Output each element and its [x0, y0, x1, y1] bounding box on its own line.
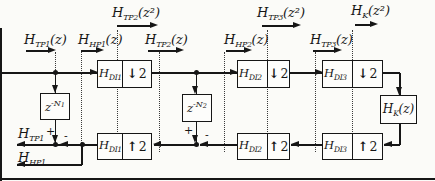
label-arrow-tp2z	[148, 50, 177, 52]
label-tp1-z: HTP1(z)	[24, 33, 67, 49]
filter-label: HDI3	[324, 140, 347, 153]
arrowhead	[52, 85, 58, 93]
downsample-arrow-icon: ↓	[127, 66, 138, 81]
label-hp1-z: HHP1(z)	[78, 33, 123, 49]
kernel-out-line	[399, 123, 401, 145]
arrowhead	[153, 141, 161, 147]
ref-line-tp3	[315, 52, 316, 152]
label-hp2-z: HHP2(z)	[224, 33, 269, 49]
ref-line-hp1	[81, 52, 82, 145]
ref-line-tp2	[159, 52, 160, 152]
upsampler: ↑2	[127, 140, 147, 154]
arrowhead	[384, 141, 392, 147]
filter-label: HDI3	[324, 68, 347, 81]
delay-label: z-N1	[45, 100, 65, 113]
label-tp3-z: HTP3(z)	[310, 33, 353, 49]
arrowhead	[370, 21, 378, 27]
arrowhead	[291, 141, 299, 147]
arrowhead	[150, 22, 158, 28]
synthesis-block-2: HDI2 ↑2	[237, 133, 290, 160]
label-output-hp1: HHP1	[18, 151, 46, 167]
downsample-arrow-icon: ↓	[269, 66, 280, 81]
label-arrow-hp2z	[226, 50, 245, 52]
ref-line-hp2	[224, 52, 225, 152]
node-branch2	[194, 70, 199, 75]
label-arrow-tp3z2	[262, 25, 294, 27]
upsample-arrow-icon: ↑	[127, 139, 138, 154]
delay-label: z-N2	[187, 101, 207, 114]
filter-label: HDI1	[99, 140, 122, 153]
label-tp2-z2: HTP2(z²)	[112, 6, 160, 22]
kernel-label: HK(z)	[383, 103, 414, 117]
label-arrow-tp3z	[313, 50, 335, 52]
upsampler: ↑2	[269, 140, 289, 154]
output-hp1-drop	[81, 145, 83, 165]
upsample-arrow-icon: ↑	[358, 139, 369, 154]
input-line	[2, 72, 97, 74]
adder2-plus-sign: +	[184, 125, 193, 136]
arrowhead	[192, 86, 198, 94]
filter-bank-diagram: HDI1 ↓2 HDI2 ↓2 HDI3 ↓2 HDI1 ↑2 HDI2 ↑2 …	[0, 0, 435, 181]
downsampler: ↓2	[269, 67, 289, 81]
adder1-minus-sign: -	[64, 131, 68, 142]
label-arrow-tp1z	[26, 50, 49, 52]
analysis-line-4	[383, 72, 400, 74]
filter-label: HDI1	[99, 68, 122, 81]
upsample-arrow-icon: ↑	[269, 139, 280, 154]
synthesis-block-1: HDI1 ↑2	[97, 133, 152, 160]
analysis-block-1: HDI1 ↓2	[97, 60, 152, 88]
label-output-tp1: HTP1	[18, 127, 44, 143]
filter-label: HDI2	[239, 140, 262, 153]
arrowhead	[293, 22, 301, 28]
kernel-block: HK(z)	[380, 95, 417, 124]
bottom-border	[0, 178, 435, 180]
filter-label: HDI2	[239, 68, 262, 81]
analysis-block-2: HDI2 ↓2	[237, 60, 290, 88]
node-branch1	[53, 70, 58, 75]
downsampler: ↓2	[358, 67, 378, 81]
adder1-plus-sign: +	[46, 126, 55, 137]
downsampler: ↓2	[127, 67, 147, 81]
synthesis-block-3: HDI3 ↑2	[322, 133, 383, 160]
upsampler: ↑2	[358, 140, 378, 154]
delay-block-n2: z-N2	[182, 94, 212, 122]
label-tp2-z: HTP2(z)	[145, 33, 188, 49]
arrowhead	[396, 87, 402, 95]
node-hp1-tap	[80, 142, 85, 147]
label-tp3-z2: HTP3(z²)	[257, 6, 305, 22]
analysis-block-3: HDI3 ↓2	[322, 60, 383, 88]
label-arrow-tp2z2	[117, 25, 151, 27]
label-k-z2: HK(z²)	[351, 4, 390, 20]
left-border	[0, 28, 2, 181]
adder2-minus-sign: -	[205, 130, 209, 141]
delay-block-n1: z-N1	[40, 93, 70, 120]
downsample-arrow-icon: ↓	[358, 66, 369, 81]
